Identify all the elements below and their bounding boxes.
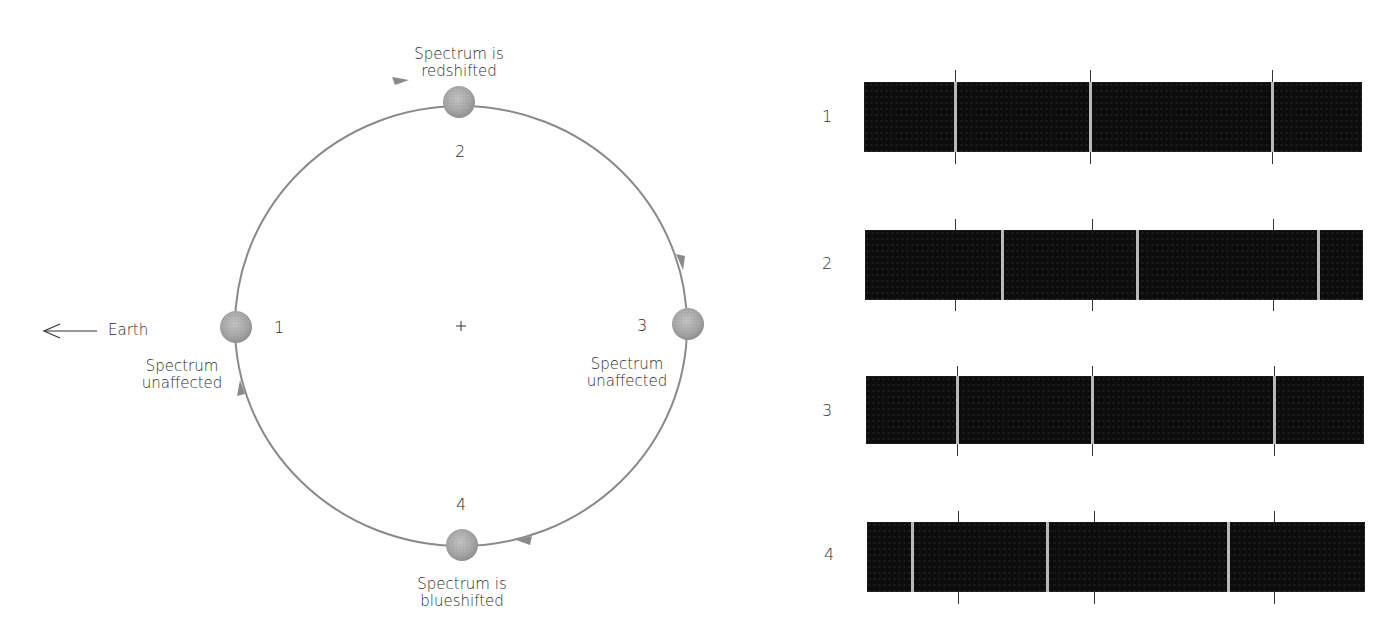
- spectrum-2-label: 2: [822, 254, 832, 273]
- star-3-caption: Spectrum unaffected: [577, 356, 677, 390]
- spectral-line: [1273, 376, 1276, 444]
- spectral-line: [956, 376, 959, 444]
- spectral-line: [1317, 230, 1320, 300]
- star-3-icon: [672, 308, 704, 340]
- star-1-icon: [220, 311, 252, 343]
- spectrum-1-ref-tick: [955, 152, 956, 164]
- spectrum-1: [864, 82, 1362, 152]
- star-2-caption-line2: redshifted: [404, 63, 514, 80]
- star-1-caption-line2: unaffected: [132, 375, 232, 392]
- spectral-line: [1089, 82, 1092, 152]
- spectrum-texture: [866, 376, 1364, 444]
- spectrum-3-label: 3: [822, 401, 832, 420]
- spectrum-texture: [867, 522, 1365, 592]
- spectrum-4-ref-tick: [958, 592, 959, 604]
- spectrum-1-ref-tick: [1090, 152, 1091, 164]
- star-2-number: 2: [455, 142, 465, 161]
- spectrum-1-label: 1: [822, 107, 832, 126]
- earth-arrow-icon: [44, 324, 97, 338]
- spectrum-1-ref-tick: [1090, 70, 1091, 82]
- spectrum-2-ref-tick: [955, 299, 956, 311]
- star-1-caption: Spectrum unaffected: [132, 358, 232, 392]
- star-1-caption-line1: Spectrum: [132, 358, 232, 375]
- spectral-line: [911, 522, 914, 592]
- star-4-caption-line1: Spectrum is: [407, 576, 517, 593]
- spectral-line: [1136, 230, 1139, 300]
- spectrum-2-ref-tick: [1092, 299, 1093, 311]
- spectrum-4: [867, 522, 1365, 592]
- star-2-icon: [443, 86, 475, 118]
- spectrum-4-ref-tick: [1274, 592, 1275, 604]
- spectrum-2: [865, 230, 1363, 300]
- earth-label: Earth: [108, 322, 148, 339]
- spectrum-3-ref-tick: [1274, 444, 1275, 456]
- spectral-line: [954, 82, 957, 152]
- spectral-line: [1271, 82, 1274, 152]
- spectral-line: [1091, 376, 1094, 444]
- spectrum-texture: [865, 230, 1363, 300]
- spectrum-3-ref-tick: [1092, 444, 1093, 456]
- star-4-caption-line2: blueshifted: [407, 593, 517, 610]
- spectrum-4-ref-tick: [1094, 592, 1095, 604]
- star-4-number: 4: [456, 495, 466, 514]
- star-4-icon: [446, 529, 478, 561]
- star-2-caption-line1: Spectrum is: [404, 46, 514, 63]
- spectrum-3: [866, 376, 1364, 444]
- center-of-mass-icon: [456, 321, 466, 331]
- spectral-line: [1046, 522, 1049, 592]
- star-3-caption-line2: unaffected: [577, 373, 677, 390]
- spectrum-2-ref-tick: [1273, 299, 1274, 311]
- spectrum-1-ref-tick: [955, 70, 956, 82]
- spectrum-4-label: 4: [824, 545, 834, 564]
- star-2-caption: Spectrum is redshifted: [404, 46, 514, 80]
- spectral-line: [1227, 522, 1230, 592]
- spectral-line: [1001, 230, 1004, 300]
- spectrum-3-ref-tick: [957, 444, 958, 456]
- spectrum-1-ref-tick: [1272, 70, 1273, 82]
- spectrum-1-ref-tick: [1272, 152, 1273, 164]
- spectrum-texture: [864, 82, 1362, 152]
- star-3-caption-line1: Spectrum: [577, 356, 677, 373]
- star-4-caption: Spectrum is blueshifted: [407, 576, 517, 610]
- star-3-number: 3: [637, 316, 647, 335]
- star-1-number: 1: [274, 318, 284, 337]
